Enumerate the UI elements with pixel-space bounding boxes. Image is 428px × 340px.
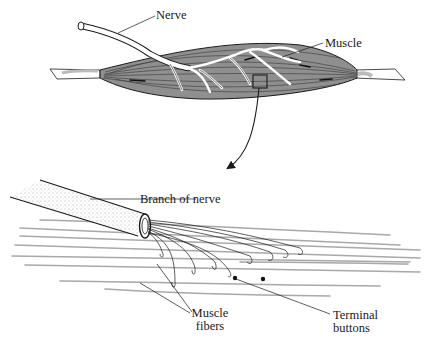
muscle-label: Muscle: [325, 37, 362, 50]
magnify-arrow: [228, 88, 259, 168]
nerve-branch: [10, 180, 151, 238]
muscle-body: [50, 43, 405, 99]
branch-of-nerve-label: Branch of nerve: [140, 193, 221, 206]
diagram-canvas: Nerve Muscle Branch of nerve Muscle fibe…: [0, 0, 428, 340]
fibers-leader-line-2: [140, 283, 190, 313]
nerve-label: Nerve: [156, 9, 187, 22]
nerve-muscle-illustration: [0, 0, 428, 340]
terminal-buttons-label-line2: buttons: [333, 322, 378, 335]
terminal-buttons-label: Terminal buttons: [333, 309, 378, 335]
muscle-fibers: [12, 220, 420, 296]
terminal-button-dots: [233, 276, 265, 281]
muscle-fibers-label: Muscle fibers: [188, 307, 232, 333]
muscle-fibers-label-line2: fibers: [188, 320, 232, 333]
nerve-leader-line: [118, 16, 155, 33]
